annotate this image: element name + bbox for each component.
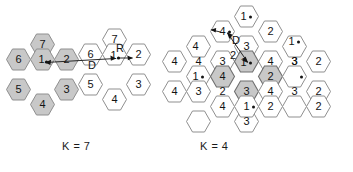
cell-label: 4 — [192, 40, 198, 52]
cell-label: 4 — [219, 100, 225, 112]
cell-label: 4 — [171, 85, 177, 97]
cell-label: 1 — [288, 35, 294, 47]
cell-label: 2 — [63, 53, 69, 65]
cell-label: 2 — [267, 70, 273, 82]
cell-label: 4 — [39, 98, 45, 110]
cell-label: 4 — [267, 85, 273, 97]
caption-right-k4: K = 4 — [200, 140, 229, 152]
cell-label: 1 — [38, 53, 44, 65]
hexagon-cluster-diagram: 7 6 2 1 5 3 4 7 6 2 1 5 3 4 — [0, 0, 353, 172]
base-station-dot — [201, 76, 204, 79]
base-station-dot — [252, 106, 255, 109]
cell-label: 4 — [195, 55, 201, 67]
cell-label: 2 — [219, 85, 225, 97]
cell-label: 2 — [315, 55, 321, 67]
label-D-left: D — [88, 59, 96, 71]
cell-label: 2 — [315, 100, 321, 112]
cell-label: 2 — [267, 100, 273, 112]
cell-label: 3 — [243, 115, 249, 127]
cell-label: 3 — [243, 85, 249, 97]
cell-label: 7 — [39, 38, 45, 50]
cell-label: 1 — [240, 10, 246, 22]
label-D-right: D — [232, 34, 240, 46]
base-station-dot — [297, 41, 300, 44]
cell-label: 3 — [63, 83, 69, 95]
cell-label: 2 — [135, 48, 141, 60]
cell-label: 2 — [267, 25, 273, 37]
cell-label: 4 — [219, 25, 225, 37]
cell-label-dup: 3 — [291, 55, 297, 67]
base-station-dot — [249, 62, 252, 65]
cell-label: 3 — [243, 40, 249, 52]
cell-label: 4 — [111, 93, 117, 105]
cell-label: 4 — [267, 55, 273, 67]
caption-left-k7: K = 7 — [62, 140, 91, 152]
base-station-dot — [249, 16, 252, 19]
cell-label: 6 — [15, 53, 21, 65]
cell-label: 5 — [87, 78, 93, 90]
cell-label: 3 — [219, 55, 225, 67]
figure-canvas: 7 6 2 1 5 3 4 7 6 2 1 5 3 4 — [0, 0, 353, 172]
cell-label: 5 — [15, 83, 21, 95]
cell-label: 3 — [135, 78, 141, 90]
cell-label: 3 — [291, 85, 297, 97]
cell-label: 4 — [219, 70, 225, 82]
cell-label: 2 — [315, 85, 321, 97]
base-station-dot — [300, 76, 303, 79]
cell-label: 3 — [195, 85, 201, 97]
cell-label: 1 — [192, 70, 198, 82]
label-2-right: 2 — [230, 49, 236, 61]
cell-label: 4 — [171, 55, 177, 67]
cell-label: 1 — [243, 100, 249, 112]
label-R-left: R — [116, 42, 124, 54]
